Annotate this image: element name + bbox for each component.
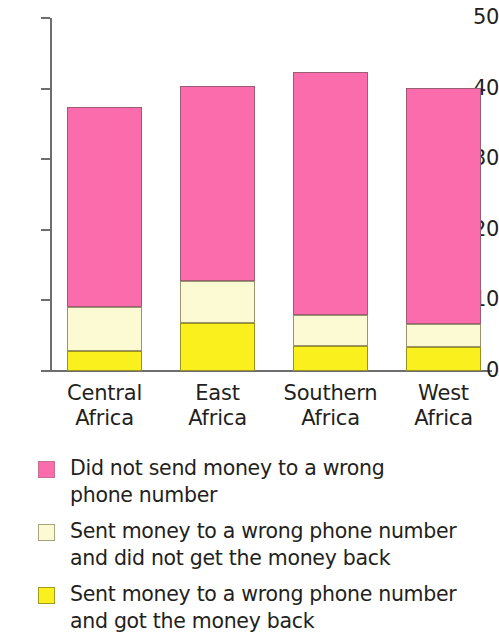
bar-segment-did-not-send	[67, 107, 142, 307]
x-axis-label-line: Africa	[271, 406, 390, 431]
y-axis-tick-mark	[41, 88, 50, 90]
x-axis-label-line: East	[158, 381, 277, 406]
legend-item[interactable]: Did not send money to a wrong phone numb…	[38, 455, 499, 509]
x-axis-label-3: SouthernAfrica	[271, 381, 390, 431]
y-axis-tick-mark	[41, 299, 50, 301]
x-axis-label-line: Africa	[158, 406, 277, 431]
y-axis-tick-mark	[41, 229, 50, 231]
y-axis-line	[50, 18, 52, 372]
x-axis-label-2: EastAfrica	[158, 381, 277, 431]
bar-segment-did-not-get-money-back	[406, 324, 481, 347]
stacked-bar-chart: 01020304050 CentralAfricaEastAfricaSouth…	[0, 0, 499, 644]
bar-segment-did-not-get-money-back	[180, 281, 255, 323]
bar-stack	[180, 0, 255, 380]
x-axis-label-1: CentralAfrica	[45, 381, 164, 431]
bar-segment-got-money-back	[406, 347, 481, 371]
x-axis-label-line: Africa	[45, 406, 164, 431]
legend-swatch-icon	[38, 587, 55, 604]
bar-segment-did-not-get-money-back	[67, 307, 142, 351]
y-axis-tick-mark	[41, 158, 50, 160]
x-axis-label-line: Africa	[384, 406, 499, 431]
bar-stack	[67, 0, 142, 380]
bar-segment-got-money-back	[180, 323, 255, 371]
legend-item[interactable]: Sent money to a wrong phone number and g…	[38, 581, 499, 635]
bar-segment-did-not-send	[180, 86, 255, 280]
bar-stack	[293, 0, 368, 380]
legend-item-label: Sent money to a wrong phone number and g…	[70, 582, 456, 633]
x-axis-label-4: WestAfrica	[384, 381, 499, 431]
legend-swatch-icon	[38, 461, 55, 478]
bar-segment-did-not-get-money-back	[293, 315, 368, 347]
bar-segment-did-not-send	[293, 72, 368, 314]
legend-item[interactable]: Sent money to a wrong phone number and d…	[38, 518, 499, 572]
x-axis-label-line: West	[384, 381, 499, 406]
y-axis-tick-mark	[41, 17, 50, 19]
x-axis-label-line: Southern	[271, 381, 390, 406]
y-axis-tick-mark	[41, 370, 50, 372]
legend-item-label: Sent money to a wrong phone number and d…	[70, 519, 456, 570]
plot-region: 01020304050 CentralAfricaEastAfricaSouth…	[0, 0, 499, 380]
bar-stack	[406, 0, 481, 380]
bar-segment-got-money-back	[293, 346, 368, 371]
bar-segment-got-money-back	[67, 351, 142, 371]
legend-item-label: Did not send money to a wrong phone numb…	[70, 456, 384, 507]
x-axis-label-line: Central	[45, 381, 164, 406]
chart-legend: Did not send money to a wrong phone numb…	[38, 455, 499, 644]
legend-swatch-icon	[38, 524, 55, 541]
bar-segment-did-not-send	[406, 88, 481, 325]
